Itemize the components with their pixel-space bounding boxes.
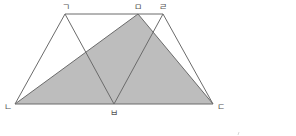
geometry-diagram: ㄱ ㅁ ㄹ ㄴ ㅂ ㄷ [0, 0, 296, 136]
label-giyeok: ㄱ [62, 2, 70, 12]
label-bieup: ㅂ [110, 108, 118, 118]
label-digeut: ㄷ [217, 102, 225, 112]
stray-mark [238, 132, 239, 135]
label-mieum: ㅁ [134, 2, 142, 12]
label-rieul: ㄹ [159, 2, 167, 12]
label-nieun: ㄴ [4, 102, 12, 112]
shaded-triangle [15, 14, 213, 104]
